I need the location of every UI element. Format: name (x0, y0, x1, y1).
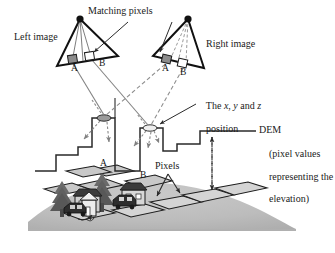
xyz-y: y (233, 100, 237, 111)
right-point-a-label: A (162, 63, 169, 73)
xyz-position-line1: The x, y and z (206, 100, 261, 111)
left-image-camera (57, 15, 118, 66)
right-camera-apex (184, 15, 191, 22)
left-pixel-b (84, 51, 94, 60)
xyz-position-label: The x, y and z position (196, 89, 261, 145)
matching-pixels-label: Matching pixels (88, 5, 153, 16)
dem-description: (pixel values representing the elevation… (259, 137, 333, 215)
left-point-b-label: B (99, 58, 105, 68)
pixels-label: Pixels (155, 160, 179, 171)
left-camera-rays (72, 60, 148, 125)
xyz-position-leader (160, 104, 196, 124)
left-camera-apex (76, 15, 83, 22)
xyz-z: z (257, 100, 261, 111)
profile-point-a-label: A (100, 158, 107, 168)
dem-desc-line3: elevation) (269, 193, 309, 204)
right-image-label: Right image (206, 38, 255, 49)
figure-canvas: Matching pixels Left image Right image T… (0, 0, 335, 253)
profile-point-b-label: B (140, 170, 146, 180)
profile-pixel-marker-b (143, 125, 157, 131)
left-point-a-label: A (71, 63, 78, 73)
right-image-camera (153, 15, 204, 68)
dem-desc-line2: representing the (269, 171, 333, 182)
profile-pixel-marker-a (97, 115, 111, 121)
right-camera-rays (105, 60, 186, 125)
dem-label: DEM (259, 124, 281, 135)
left-image-label: Left image (14, 31, 58, 42)
xyz-position-line2: position (206, 123, 238, 134)
dem-desc-line1: (pixel values (269, 148, 320, 159)
right-point-b-label: B (180, 67, 186, 77)
xyz-x: x (224, 100, 228, 111)
